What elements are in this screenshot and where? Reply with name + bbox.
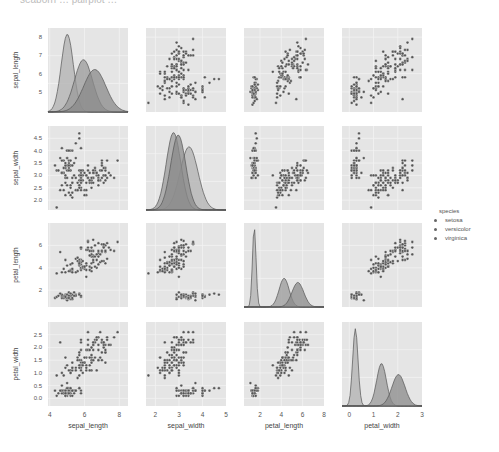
- y-tick-label: 0.0: [34, 395, 43, 401]
- y-tick-label: 3.0: [34, 172, 43, 178]
- x-tick-label: 2: [258, 411, 262, 418]
- x-axis-label: petal_width: [364, 422, 400, 430]
- panel-sepal_length-vs-sepal_width: [146, 28, 226, 112]
- y-tick-label: 4.5: [34, 135, 43, 141]
- panel-petal_length-vs-petal_width: [342, 223, 422, 307]
- y-tick-label: 0.5: [34, 383, 43, 389]
- x-tick-label: 2: [154, 411, 158, 418]
- y-tick-label: 2.0: [34, 197, 43, 203]
- panel-sepal_width-vs-petal_width: [342, 126, 422, 210]
- x-tick-label: 1: [372, 411, 376, 418]
- y-tick-label: 3.5: [34, 160, 43, 166]
- legend: species setosa versicolor virginica: [434, 207, 471, 243]
- panel-sepal_width-vs-sepal_width: [146, 126, 226, 210]
- x-axis-label: sepal_width: [168, 422, 205, 430]
- y-tick-label: 2.5: [34, 332, 43, 338]
- panel-sepal_length-vs-petal_width: [342, 28, 422, 112]
- panel-petal_length-vs-sepal_width: [146, 223, 226, 307]
- legend-title: species: [439, 207, 471, 216]
- y-tick-label: 2.0: [34, 344, 43, 350]
- x-axis-label: petal_length: [265, 422, 303, 430]
- panel-petal_width-vs-petal_length: [244, 322, 324, 406]
- pairplot-figure: 5678sepal_length2.02.53.03.54.04.5sepal_…: [0, 0, 499, 452]
- x-tick-label: 8: [322, 411, 326, 418]
- y-axis-label: sepal_length: [12, 51, 20, 88]
- x-tick-label: 2: [396, 411, 400, 418]
- x-tick-label: 4: [280, 411, 284, 418]
- x-tick-label: 4: [201, 411, 205, 418]
- y-tick-label: 2.5: [34, 185, 43, 191]
- legend-item-setosa: setosa: [434, 216, 471, 225]
- marker-dot-icon: [434, 228, 437, 231]
- x-tick-label: 8: [117, 411, 121, 418]
- y-axis-label: petal_length: [12, 247, 20, 283]
- x-tick-label: 3: [177, 411, 181, 418]
- x-tick-label: 0: [347, 411, 351, 418]
- y-axis-label: sepal_width: [12, 150, 20, 185]
- legend-item-virginica: virginica: [434, 234, 471, 243]
- marker-dot-icon: [434, 237, 437, 240]
- y-axis-label: petal_width: [12, 347, 20, 380]
- y-tick-label: 6: [39, 242, 43, 248]
- y-tick-label: 4.0: [34, 148, 43, 154]
- x-tick-label: 6: [301, 411, 305, 418]
- y-tick-label: 8: [39, 34, 43, 40]
- x-tick-label: 6: [83, 411, 87, 418]
- panel-sepal_width-vs-petal_length: [244, 126, 324, 210]
- x-axis-label: sepal_length: [68, 422, 108, 430]
- y-tick-label: 6: [39, 71, 43, 77]
- panel-sepal_length-vs-petal_length: [244, 28, 324, 112]
- y-tick-label: 7: [39, 52, 43, 58]
- y-tick-label: 4: [39, 265, 43, 271]
- legend-item-versicolor: versicolor: [434, 225, 471, 234]
- panel-sepal_width-vs-sepal_length: [48, 126, 128, 210]
- panel-petal_length-vs-sepal_length: [48, 223, 128, 307]
- y-tick-label: 1.5: [34, 357, 43, 363]
- y-tick-label: 1.0: [34, 370, 43, 376]
- x-tick-label: 4: [48, 411, 52, 418]
- panel-sepal_length-vs-sepal_length: [48, 28, 128, 112]
- x-tick-label: 5: [224, 411, 228, 418]
- marker-dot-icon: [434, 219, 437, 222]
- panel-petal_length-vs-petal_length: [244, 223, 324, 307]
- y-tick-label: 5: [39, 89, 43, 95]
- x-tick-label: 3: [420, 411, 424, 418]
- panel-petal_width-vs-sepal_length: [48, 322, 128, 406]
- y-tick-label: 2: [39, 287, 43, 293]
- panel-petal_width-vs-sepal_width: [146, 322, 226, 406]
- panel-petal_width-vs-petal_width: [342, 322, 422, 406]
